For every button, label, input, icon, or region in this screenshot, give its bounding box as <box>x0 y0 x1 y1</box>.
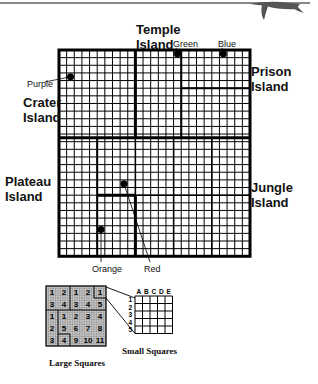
svg-text:2: 2 <box>50 324 55 333</box>
svg-text:C: C <box>151 288 156 295</box>
svg-text:7: 7 <box>86 324 91 333</box>
svg-text:1: 1 <box>62 312 67 321</box>
svg-text:B: B <box>144 288 149 295</box>
svg-text:3: 3 <box>50 336 55 345</box>
svg-text:3: 3 <box>86 312 91 321</box>
svg-text:2: 2 <box>62 288 67 297</box>
svg-text:3: 3 <box>128 311 132 318</box>
svg-text:6: 6 <box>74 324 79 333</box>
svg-text:4: 4 <box>62 336 67 345</box>
svg-text:9: 9 <box>74 336 79 345</box>
svg-text:8: 8 <box>98 324 103 333</box>
svg-text:D: D <box>159 288 164 295</box>
svg-text:1: 1 <box>98 288 103 297</box>
svg-text:4: 4 <box>128 319 132 326</box>
grid-legend: 121213434511234256783491011ABCDE12345 <box>0 0 318 384</box>
svg-text:2: 2 <box>86 288 91 297</box>
svg-text:4: 4 <box>98 312 103 321</box>
svg-text:11: 11 <box>96 336 105 345</box>
svg-text:1: 1 <box>50 312 55 321</box>
svg-text:1: 1 <box>128 296 132 303</box>
svg-text:3: 3 <box>50 300 55 309</box>
svg-text:E: E <box>167 288 172 295</box>
svg-text:5: 5 <box>62 324 67 333</box>
small-squares-caption: Small Squares <box>122 346 177 356</box>
svg-text:1: 1 <box>74 288 79 297</box>
large-squares-caption: Large Squares <box>49 358 105 368</box>
svg-text:1: 1 <box>50 288 55 297</box>
svg-text:3: 3 <box>74 300 79 309</box>
svg-text:5: 5 <box>98 300 103 309</box>
svg-text:A: A <box>136 288 141 295</box>
svg-text:2: 2 <box>74 312 79 321</box>
svg-text:10: 10 <box>84 336 93 345</box>
svg-text:4: 4 <box>62 300 67 309</box>
svg-text:2: 2 <box>128 304 132 311</box>
svg-text:4: 4 <box>86 300 91 309</box>
